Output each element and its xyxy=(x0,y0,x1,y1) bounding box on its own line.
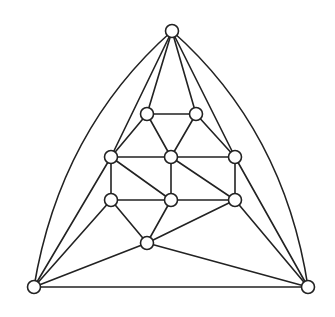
edge-u2-m3 xyxy=(196,114,235,157)
node-l1 xyxy=(105,194,118,207)
node-br xyxy=(302,281,315,294)
node-u2 xyxy=(190,108,203,121)
edge-br-m3 xyxy=(235,157,308,287)
edge-l3-b xyxy=(147,200,235,243)
node-l2 xyxy=(165,194,178,207)
node-m1 xyxy=(105,151,118,164)
edge-br-l3 xyxy=(235,200,308,287)
node-bl xyxy=(28,281,41,294)
edge-bl-m1 xyxy=(34,157,111,287)
node-m3 xyxy=(229,151,242,164)
edge-bl-l1 xyxy=(34,200,111,287)
edge-m2-l3 xyxy=(171,157,235,200)
edge-m1-l2 xyxy=(111,157,171,200)
edge-u1-m2 xyxy=(147,114,171,157)
graph-diagram xyxy=(0,0,335,317)
edge-br-b xyxy=(147,243,308,287)
edge-top-m1 xyxy=(111,31,172,157)
edge-bl-b xyxy=(34,243,147,287)
node-u1 xyxy=(141,108,154,121)
node-l3 xyxy=(229,194,242,207)
node-b xyxy=(141,237,154,250)
graph-nodes xyxy=(28,25,315,294)
edge-u2-m2 xyxy=(171,114,196,157)
node-m2 xyxy=(165,151,178,164)
edge-l1-b xyxy=(111,200,147,243)
node-top xyxy=(166,25,179,38)
